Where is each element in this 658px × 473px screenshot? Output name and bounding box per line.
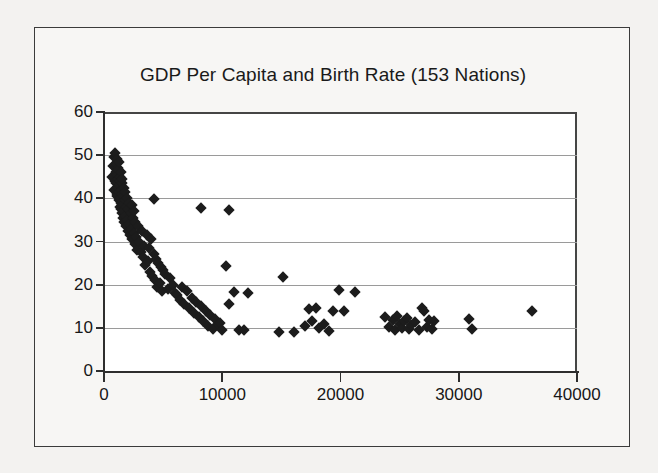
x-tick-label-0: 0: [54, 386, 154, 403]
scatter-marker-layer: [104, 112, 577, 371]
y-tick-mark-0: [96, 370, 104, 372]
x-tick-mark-20000: [340, 373, 342, 382]
scatter-point: [277, 271, 288, 282]
y-tick-label-60: 60: [39, 103, 93, 120]
scatter-point: [464, 314, 475, 325]
x-tick-label-30000: 30000: [409, 386, 509, 403]
chart-figure: GDP Per Capita and Birth Rate (153 Natio…: [0, 0, 658, 473]
y-tick-mark-60: [96, 111, 104, 113]
scatter-point: [273, 326, 284, 337]
scatter-point: [334, 284, 345, 295]
x-tick-mark-0: [103, 373, 105, 382]
y-tick-label-40: 40: [39, 189, 93, 206]
scatter-point: [526, 305, 537, 316]
scatter-point: [148, 194, 159, 205]
y-tick-mark-10: [96, 327, 104, 329]
scatter-point: [228, 287, 239, 298]
x-tick-mark-10000: [221, 373, 223, 382]
chart-title: GDP Per Capita and Birth Rate (153 Natio…: [35, 64, 631, 86]
x-tick-label-10000: 10000: [172, 386, 272, 403]
scatter-point: [220, 260, 231, 271]
figure-frame: GDP Per Capita and Birth Rate (153 Natio…: [34, 27, 630, 447]
scatter-point: [310, 303, 321, 314]
y-tick-mark-50: [96, 154, 104, 156]
x-tick-mark-40000: [576, 373, 578, 382]
y-tick-mark-30: [96, 241, 104, 243]
scatter-point: [224, 205, 235, 216]
y-tick-mark-20: [96, 284, 104, 286]
x-tick-mark-30000: [458, 373, 460, 382]
y-tick-label-0: 0: [39, 362, 93, 379]
plot-area: [104, 112, 577, 371]
x-tick-label-40000: 40000: [527, 386, 627, 403]
scatter-point: [195, 202, 206, 213]
scatter-point: [466, 323, 477, 334]
scatter-point: [289, 326, 300, 337]
scatter-point: [243, 288, 254, 299]
y-tick-label-10: 10: [39, 319, 93, 336]
scatter-point: [224, 298, 235, 309]
scatter-point: [338, 305, 349, 316]
y-tick-mark-40: [96, 197, 104, 199]
y-tick-label-30: 30: [39, 233, 93, 250]
scatter-point: [349, 287, 360, 298]
y-tick-label-20: 20: [39, 276, 93, 293]
y-tick-label-50: 50: [39, 146, 93, 163]
x-tick-label-20000: 20000: [291, 386, 391, 403]
